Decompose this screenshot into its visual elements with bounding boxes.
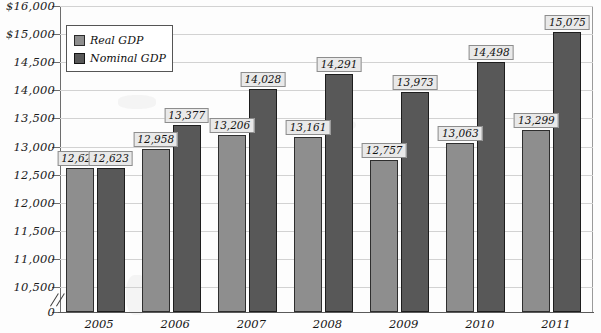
bar-2006-real-gdp	[142, 149, 170, 312]
y-axis-tick-label: 12,500	[14, 168, 55, 182]
y-axis-tick-label: 13,000	[14, 140, 55, 154]
x-axis-label-2007: 2007	[237, 317, 266, 331]
x-axis-baseline	[58, 312, 594, 313]
legend-item-real-gdp: Real GDP	[74, 31, 172, 49]
bar-2006-nominal-gdp	[173, 125, 201, 312]
x-axis-label-2006: 2006	[161, 317, 190, 331]
bar-2005-nominal-gdp	[97, 168, 125, 312]
x-axis-label-2005: 2005	[84, 317, 113, 331]
bar-2011-nominal-gdp	[553, 32, 581, 312]
y-axis-tick-label: 11,500	[14, 224, 55, 238]
y-axis-tick-label: 14,000	[14, 83, 55, 97]
value-label-2006-nominal-gdp: 13,377	[164, 108, 209, 123]
value-label-2008-real-gdp: 13,161	[286, 120, 331, 135]
value-label-2010-nominal-gdp: 14,498	[469, 45, 514, 60]
bar-2007-real-gdp	[218, 135, 246, 312]
legend-label-real-gdp: Real GDP	[90, 34, 143, 47]
value-label-2007-nominal-gdp: 14,028	[240, 72, 285, 87]
value-label-2008-nominal-gdp: 14,291	[317, 57, 362, 72]
bar-2010-nominal-gdp	[477, 62, 505, 312]
value-label-2009-real-gdp: 12,757	[362, 143, 407, 158]
y-axis-tick-label: 10,500	[14, 280, 55, 294]
legend-swatch-nominal-gdp-icon	[74, 53, 85, 64]
y-axis-tick-label: 12,000	[14, 196, 55, 210]
value-label-2011-real-gdp: 13,299	[514, 113, 559, 128]
bar-2009-real-gdp	[370, 160, 398, 312]
bar-2011-real-gdp	[522, 130, 550, 312]
gridline	[60, 6, 593, 7]
y-axis-tick-label: $16,000	[6, 0, 55, 13]
value-label-2007-real-gdp: 13,206	[209, 118, 254, 133]
legend-label-nominal-gdp: Nominal GDP	[90, 52, 166, 65]
legend-swatch-real-gdp-icon	[74, 35, 85, 46]
legend: Real GDP Nominal GDP	[66, 25, 173, 72]
bar-2010-real-gdp	[446, 143, 474, 312]
y-axis-tick-label: $15,000	[6, 27, 55, 41]
legend-item-nominal-gdp: Nominal GDP	[74, 49, 172, 67]
x-axis-label-2009: 2009	[389, 317, 418, 331]
x-axis-label-2008: 2008	[313, 317, 342, 331]
bar-2009-nominal-gdp	[401, 92, 429, 312]
x-axis-label-2011: 2011	[541, 317, 570, 331]
y-axis-tick-label: 14,500	[14, 55, 55, 69]
bar-2008-nominal-gdp	[325, 74, 353, 312]
value-label-2011-nominal-gdp: 15,075	[545, 15, 590, 30]
value-label-2010-real-gdp: 13,063	[438, 126, 483, 141]
bar-2008-real-gdp	[294, 137, 322, 312]
value-label-2009-nominal-gdp: 13,973	[393, 75, 438, 90]
x-axis-label-2010: 2010	[465, 317, 494, 331]
gdp-bar-chart: $16,000$15,00014,50014,00013,50013,00012…	[0, 0, 601, 333]
value-label-2006-real-gdp: 12,958	[133, 132, 178, 147]
y-axis-tick-label: 11,000	[14, 252, 55, 266]
bar-2005-real-gdp	[66, 168, 94, 312]
y-axis-tick-label: 13,500	[14, 111, 55, 125]
value-label-2005-nominal-gdp: 12,623	[88, 151, 133, 166]
